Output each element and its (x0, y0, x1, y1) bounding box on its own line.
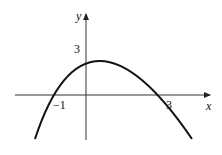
y-tick-3: 3 (74, 42, 80, 56)
x-tick-neg1: −1 (53, 98, 66, 112)
y-axis-label: y (75, 9, 82, 23)
parabola-graph: y x 3 −1 3 (0, 0, 222, 155)
x-tick-3: 3 (166, 98, 172, 112)
x-axis-label: x (205, 99, 212, 113)
